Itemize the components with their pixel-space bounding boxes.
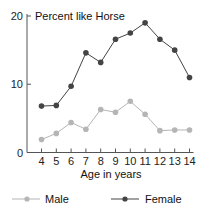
legend-item-female: Female <box>111 193 182 205</box>
y-tick-label: 0 <box>17 147 23 159</box>
data-point <box>142 20 148 26</box>
data-point <box>98 107 104 113</box>
data-point <box>157 128 163 134</box>
axes <box>27 14 194 153</box>
x-tick-label: 12 <box>154 155 166 167</box>
data-point <box>39 137 45 143</box>
data-point <box>39 103 45 109</box>
legend-female-label: Female <box>145 193 182 205</box>
x-tick-label: 14 <box>183 155 195 167</box>
line-chart: Percent like Horse 01020 456789101112131… <box>0 0 212 219</box>
x-tick-label: 13 <box>169 155 181 167</box>
y-axis-ticks: 01020 <box>11 10 31 159</box>
data-point <box>98 60 104 66</box>
x-tick-label: 8 <box>98 155 104 167</box>
x-tick-label: 11 <box>139 155 150 167</box>
series-line <box>42 23 190 106</box>
y-tick-label: 10 <box>11 78 23 90</box>
legend-female-marker <box>122 196 127 201</box>
x-axis-ticks: 4567891011121314 <box>38 149 195 167</box>
x-tick-label: 6 <box>68 155 74 167</box>
x-tick-label: 7 <box>83 155 89 167</box>
x-tick-label: 10 <box>124 155 136 167</box>
data-point <box>54 131 60 137</box>
data-point <box>172 127 178 133</box>
series-layer <box>39 20 193 142</box>
data-point <box>113 36 119 42</box>
legend-item-male: Male <box>12 193 69 205</box>
data-point <box>172 47 178 53</box>
series-line <box>42 101 190 139</box>
x-tick-label: 4 <box>38 155 44 167</box>
series-male <box>39 99 193 143</box>
x-axis-title: Age in years <box>80 168 142 180</box>
data-point <box>128 99 134 105</box>
data-point <box>187 75 193 81</box>
data-point <box>113 109 119 115</box>
data-point <box>128 30 134 36</box>
data-point <box>83 50 89 56</box>
x-tick-label: 5 <box>53 155 59 167</box>
data-point <box>68 83 74 89</box>
data-point <box>83 126 89 132</box>
x-tick-label: 9 <box>112 155 118 167</box>
data-point <box>68 120 74 126</box>
y-tick-label: 20 <box>11 10 23 22</box>
legend: Male Female <box>12 193 182 205</box>
data-point <box>157 36 163 42</box>
series-female <box>39 20 193 109</box>
chart-title: Percent like Horse <box>35 10 125 22</box>
data-point <box>54 103 60 109</box>
legend-male-label: Male <box>45 193 69 205</box>
data-point <box>142 111 148 117</box>
legend-male-marker <box>24 196 29 201</box>
data-point <box>187 127 193 133</box>
